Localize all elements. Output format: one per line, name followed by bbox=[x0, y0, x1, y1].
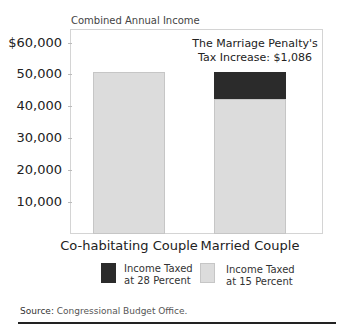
y-tick-label: $60,000 bbox=[0, 36, 62, 50]
annotation-line-1: The Marriage Penalty's bbox=[190, 37, 320, 51]
bar-cohabitating-15pct bbox=[93, 72, 165, 234]
x-category-label: Married Couple bbox=[180, 238, 320, 253]
annotation-line-2: Tax Increase: $1,086 bbox=[190, 51, 320, 65]
legend-label-15pct: Income Taxed at 15 Percent bbox=[226, 264, 295, 288]
x-category-label: Co-habitating Couple bbox=[59, 238, 199, 253]
legend-text-line: at 15 Percent bbox=[226, 276, 295, 288]
source-text: Congressional Budget Office. bbox=[57, 306, 188, 316]
source-label: Source: bbox=[20, 306, 54, 316]
y-tick-mark bbox=[68, 138, 72, 139]
bar-married-28pct bbox=[214, 72, 286, 100]
y-tick-mark bbox=[68, 202, 72, 203]
y-tick-label: 10,000 bbox=[0, 195, 62, 209]
y-tick-mark bbox=[68, 43, 72, 44]
y-tick-mark bbox=[68, 74, 72, 75]
bar-married-15pct bbox=[214, 99, 286, 234]
legend-swatch-15pct bbox=[200, 263, 215, 283]
y-tick-mark bbox=[68, 170, 72, 171]
y-tick-mark bbox=[68, 106, 72, 107]
legend-swatch-28pct bbox=[101, 263, 116, 283]
y-axis-title: Combined Annual Income bbox=[71, 15, 200, 26]
legend-label-28pct: Income Taxed at 28 Percent bbox=[124, 263, 193, 287]
marriage-penalty-annotation: The Marriage Penalty's Tax Increase: $1,… bbox=[190, 37, 320, 65]
source-note: Source: Congressional Budget Office. bbox=[20, 306, 187, 316]
legend-text-line: Income Taxed bbox=[124, 263, 193, 275]
bottom-rule bbox=[18, 322, 336, 324]
legend-text-line: at 28 Percent bbox=[124, 275, 193, 287]
y-tick-label: 50,000 bbox=[0, 67, 62, 81]
y-tick-label: 20,000 bbox=[0, 163, 62, 177]
legend-text-line: Income Taxed bbox=[226, 264, 295, 276]
y-tick-label: 30,000 bbox=[0, 131, 62, 145]
y-tick-label: 40,000 bbox=[0, 99, 62, 113]
